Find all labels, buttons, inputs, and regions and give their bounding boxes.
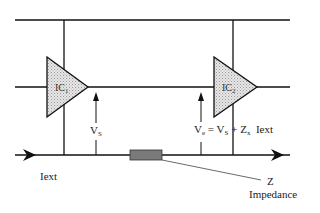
ve-term2: Z: [240, 123, 247, 135]
vs-label-sub: S: [98, 130, 102, 138]
ve-lhs: V: [194, 123, 202, 135]
ve-equation-label: Ve = VS + Zx Iext: [194, 124, 273, 137]
ic2-label: IC2: [222, 83, 236, 95]
ic2-label-main: IC: [222, 82, 232, 93]
z-label: Z: [267, 176, 274, 187]
vs-label: VS: [90, 125, 102, 138]
ic1-label: IC1: [55, 83, 69, 95]
vs-arrowhead-icon: [93, 92, 99, 101]
ic1-label-main: IC: [55, 82, 65, 93]
ve-equals: =: [205, 123, 217, 135]
ve-plus: +: [228, 123, 240, 135]
ic2-label-sub: 2: [232, 87, 236, 95]
ve-arrowhead-icon: [198, 92, 204, 101]
ve-term1: V: [217, 123, 225, 135]
impedance-resistor: [130, 150, 162, 160]
ic1-label-sub: 1: [65, 87, 69, 95]
impedance-label: Impedance: [249, 189, 297, 200]
ve-term3: Iext: [250, 123, 273, 135]
impedance-leader-line: [162, 160, 261, 180]
vs-label-main: V: [90, 124, 98, 136]
iext-label: Iext: [40, 171, 57, 182]
